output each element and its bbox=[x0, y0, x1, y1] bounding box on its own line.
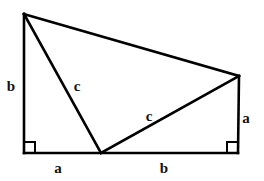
segment-top-edge bbox=[24, 14, 239, 76]
trapezoid-outline bbox=[24, 14, 239, 153]
geometry-diagram: b c c a a b bbox=[0, 0, 264, 181]
right-angle-markers bbox=[24, 142, 238, 153]
label-inner-c-right: c bbox=[146, 109, 153, 124]
segment-right-leg-a bbox=[238, 76, 239, 153]
label-base-a: a bbox=[54, 161, 62, 176]
diagram-canvas bbox=[0, 0, 264, 181]
label-left-b: b bbox=[7, 79, 15, 94]
label-base-b: b bbox=[160, 161, 168, 176]
segment-inner-c-right bbox=[101, 76, 239, 153]
label-right-a: a bbox=[242, 111, 250, 126]
inner-hypotenuses bbox=[24, 14, 239, 153]
right-angle-bottom-right-icon bbox=[227, 142, 238, 153]
label-inner-c-left: c bbox=[74, 79, 81, 94]
segment-inner-c-left bbox=[24, 14, 101, 153]
right-angle-bottom-left-icon bbox=[24, 142, 35, 153]
